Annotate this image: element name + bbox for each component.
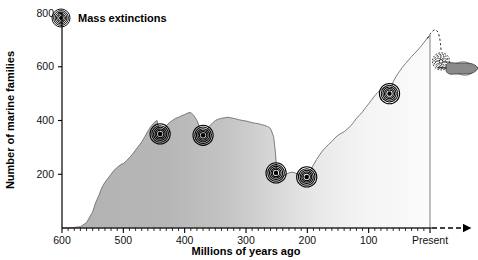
human-hand-icon xyxy=(438,62,478,76)
y-tick-label-800: 800 xyxy=(36,7,54,19)
mass-extinction-permian xyxy=(266,163,286,183)
marine-families-area xyxy=(62,35,430,228)
x-axis-title: Millions of years ago xyxy=(192,245,301,257)
marine-diversity-figure: 200400600800 600500400300200100Present M… xyxy=(0,0,478,260)
data-area-group xyxy=(62,35,430,228)
x-tick-group: 600500400300200100Present xyxy=(53,228,448,246)
y-tick-label-200: 200 xyxy=(36,168,54,180)
marker-center-dot xyxy=(387,91,391,95)
y-axis-title: Number of marine families xyxy=(4,51,16,189)
legend-label: Mass extinctions xyxy=(78,12,167,24)
x-tick-label-100: 100 xyxy=(360,234,378,246)
legend: Mass extinctions xyxy=(52,9,167,27)
mass-extinction-cretaceous xyxy=(379,84,399,104)
marker-center-dot xyxy=(201,133,205,137)
marker-center-dot xyxy=(439,60,443,64)
x-tick-label-600: 600 xyxy=(53,234,71,246)
marker-center-dot xyxy=(158,132,162,136)
marker-center-dot xyxy=(305,175,309,179)
x-tick-label-200: 200 xyxy=(299,234,317,246)
marker-center-dot xyxy=(59,16,63,20)
chart-canvas: 200400600800 600500400300200100Present M… xyxy=(0,0,478,260)
x-tick-label-500: 500 xyxy=(115,234,133,246)
mass-extinction-devonian xyxy=(193,125,213,145)
mass-extinction-triassic xyxy=(297,167,317,187)
y-tick-label-400: 400 xyxy=(36,114,54,126)
x-tick-label-0: Present xyxy=(412,234,448,246)
marker-center-dot xyxy=(274,171,278,175)
mass-extinction-ordovician xyxy=(150,124,170,144)
y-tick-group: 200400600800 xyxy=(36,7,62,180)
legend-mass-extinction-icon xyxy=(52,9,70,27)
mass-extinction-marker xyxy=(52,9,70,27)
y-tick-label-600: 600 xyxy=(36,60,54,72)
